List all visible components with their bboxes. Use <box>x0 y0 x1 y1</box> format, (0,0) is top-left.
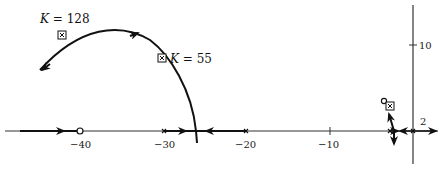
closed-loop-point-origin <box>386 102 394 110</box>
root-locus-diagram: −40 −30 −20 −10 2 10 <box>0 0 445 169</box>
locus-arc <box>40 30 196 131</box>
annotation-k128: K = 128 <box>39 12 90 26</box>
annotation-k55: K = 55 <box>169 52 212 66</box>
closed-loop-point-k55 <box>158 54 166 62</box>
tick-label-neg10: −10 <box>318 139 339 150</box>
closed-loop-point-k128 <box>58 31 66 39</box>
tick-label-neg30: −30 <box>154 139 175 150</box>
tick-label-2: 2 <box>420 116 426 127</box>
tick-label-neg20: −20 <box>235 139 256 150</box>
zero-marker-neg40 <box>77 128 83 134</box>
tick-label-neg40: −40 <box>70 139 91 150</box>
tick-label-imag-10: 10 <box>419 40 432 51</box>
